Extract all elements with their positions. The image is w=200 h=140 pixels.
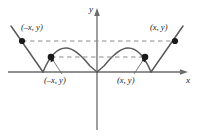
inner-right-point	[142, 54, 149, 61]
outer-left-point	[19, 38, 25, 44]
inner-left-point	[48, 54, 55, 61]
math-graph-figure: (–x, y) (x, y) (–x, y) (x, y) y x	[0, 0, 200, 140]
x-axis-label: x	[186, 76, 190, 85]
inner-left-point-label: (–x, y)	[44, 76, 66, 85]
y-axis	[94, 8, 100, 130]
outer-right-point	[172, 38, 178, 44]
graph-canvas	[0, 0, 200, 140]
inner-right-point-label: (x, y)	[117, 76, 134, 85]
outer-right-point-label: (x, y)	[150, 23, 167, 32]
y-axis-label: y	[89, 5, 93, 14]
outer-left-point-label: (–x, y)	[21, 23, 43, 32]
